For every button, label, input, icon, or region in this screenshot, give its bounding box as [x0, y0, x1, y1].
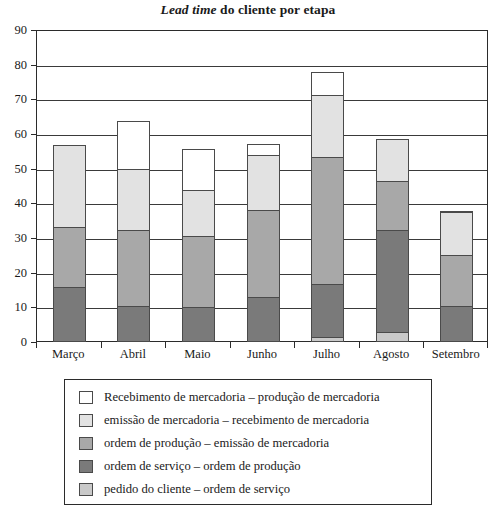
- bar-segment[interactable]: [247, 297, 280, 342]
- bar-segment[interactable]: [182, 236, 215, 309]
- y-axis-tick-label: 70: [15, 92, 28, 107]
- bar-segment[interactable]: [376, 230, 409, 332]
- legend-swatch-icon: [79, 483, 93, 496]
- bar-segment[interactable]: [311, 284, 344, 338]
- x-axis-labels: MarçoAbrilMaioJunhoJulhoAgostoSetembro: [36, 347, 488, 367]
- y-axis-tick-mark: [31, 134, 36, 135]
- legend-item-label: emissão de mercadoria – recebimento de m…: [104, 414, 369, 427]
- bar-segment[interactable]: [440, 255, 473, 307]
- y-axis-tick-label: 20: [15, 265, 28, 280]
- bar-segment[interactable]: [247, 210, 280, 298]
- bar-segment[interactable]: [182, 307, 215, 342]
- y-axis-tick-label: 80: [15, 57, 28, 72]
- bar-segment[interactable]: [117, 230, 150, 306]
- bar-segment[interactable]: [117, 306, 150, 342]
- y-axis-tick-label: 50: [15, 161, 28, 176]
- bar-group[interactable]: [247, 144, 280, 341]
- bar-group[interactable]: [440, 211, 473, 341]
- chart-title: Lead time do cliente por etapa: [0, 2, 496, 18]
- legend-item-label: ordem de serviço – ordem de produção: [104, 460, 301, 473]
- legend-item[interactable]: pedido do cliente – ordem de serviço: [79, 478, 431, 501]
- bars-layer: [37, 31, 487, 341]
- bar-segment[interactable]: [311, 157, 344, 285]
- bar-segment[interactable]: [247, 155, 280, 210]
- y-axis-tick-mark: [31, 99, 36, 100]
- y-axis-tick-mark: [31, 65, 36, 66]
- bar-segment[interactable]: [376, 332, 409, 342]
- y-axis-tick-label: 10: [15, 300, 28, 315]
- bar-segment[interactable]: [117, 121, 150, 170]
- bar-segment[interactable]: [53, 287, 86, 342]
- x-axis-category-label: Agosto: [373, 347, 409, 362]
- legend-item[interactable]: ordem de serviço – ordem de produção: [79, 455, 431, 478]
- y-axis-tick-mark: [31, 169, 36, 170]
- y-axis-tick-mark: [31, 238, 36, 239]
- x-axis-category-label: Março: [52, 347, 85, 362]
- legend-item-label: pedido do cliente – ordem de serviço: [104, 483, 290, 496]
- y-axis-tick-mark: [31, 203, 36, 204]
- bar-segment[interactable]: [376, 181, 409, 231]
- x-axis-category-label: Setembro: [432, 347, 480, 362]
- legend-swatch-icon: [79, 391, 93, 404]
- bar-group[interactable]: [53, 145, 86, 341]
- bar-segment[interactable]: [117, 169, 150, 231]
- y-axis-tick-label: 40: [15, 196, 28, 211]
- chart-container: Lead time do cliente por etapa 010203040…: [0, 0, 496, 513]
- y-axis-tick-label: 60: [15, 127, 28, 142]
- bar-segment[interactable]: [53, 145, 86, 228]
- bar-group[interactable]: [182, 149, 215, 341]
- y-axis-tick-label: 30: [15, 231, 28, 246]
- bar-segment[interactable]: [311, 95, 344, 157]
- bar-group[interactable]: [376, 139, 409, 341]
- y-axis-tick-mark: [31, 307, 36, 308]
- plot-area: [36, 30, 488, 342]
- y-axis-tick-label: 0: [21, 335, 27, 350]
- legend-item[interactable]: Recebimento de mercadoria – produção de …: [79, 386, 431, 409]
- bar-segment[interactable]: [53, 227, 86, 288]
- y-axis-tick-mark: [31, 273, 36, 274]
- y-axis-labels: 0102030405060708090: [0, 30, 32, 342]
- bar-segment[interactable]: [182, 149, 215, 191]
- legend: Recebimento de mercadoria – produção de …: [64, 379, 432, 505]
- bar-segment[interactable]: [182, 190, 215, 237]
- legend-item-label: ordem de produção – emissão de mercadori…: [104, 437, 329, 450]
- legend-swatch-icon: [79, 437, 93, 450]
- legend-swatch-icon: [79, 460, 93, 473]
- x-axis-category-label: Julho: [313, 347, 340, 362]
- x-axis-category-label: Abril: [120, 347, 146, 362]
- y-axis-tick-mark: [31, 30, 36, 31]
- y-axis-tick-mark: [31, 342, 36, 343]
- bar-segment[interactable]: [376, 139, 409, 182]
- y-axis-tick-label: 90: [15, 23, 28, 38]
- bar-group[interactable]: [117, 121, 150, 341]
- legend-item[interactable]: emissão de mercadoria – recebimento de m…: [79, 409, 431, 432]
- legend-item[interactable]: ordem de produção – emissão de mercadori…: [79, 432, 431, 455]
- legend-swatch-icon: [79, 414, 93, 427]
- legend-items: Recebimento de mercadoria – produção de …: [65, 380, 431, 501]
- legend-item-label: Recebimento de mercadoria – produção de …: [104, 391, 380, 404]
- x-axis-category-label: Junho: [247, 347, 277, 362]
- chart-title-emphasis: Lead time: [161, 2, 217, 17]
- chart-title-rest: do cliente por etapa: [217, 2, 336, 17]
- bar-segment[interactable]: [311, 72, 344, 96]
- x-axis-category-label: Maio: [184, 347, 210, 362]
- bar-segment[interactable]: [440, 212, 473, 255]
- bar-group[interactable]: [311, 72, 344, 341]
- bar-segment[interactable]: [440, 306, 473, 342]
